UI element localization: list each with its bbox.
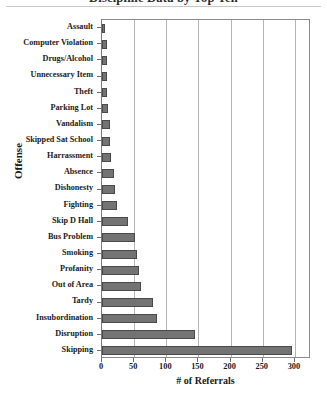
- bar-row[interactable]: [102, 101, 108, 117]
- x-tick-label: 300: [288, 362, 301, 371]
- y-tick-label: Computer Violation: [23, 35, 93, 51]
- x-tick-label: 50: [129, 362, 137, 371]
- x-tick-label: 200: [223, 362, 236, 371]
- x-tick-label: 150: [191, 362, 204, 371]
- bar[interactable]: [102, 233, 135, 242]
- bar[interactable]: [102, 120, 110, 129]
- y-tick-label: Parking Lot: [50, 100, 93, 116]
- y-tick-label: Unnecessary Item: [30, 67, 93, 83]
- y-tick-label: Dishonesty: [55, 180, 93, 196]
- y-tick-label: Assault: [67, 19, 93, 35]
- bar[interactable]: [102, 330, 195, 339]
- bar[interactable]: [102, 137, 110, 146]
- y-tick-label: Smoking: [62, 245, 93, 261]
- bar[interactable]: [102, 346, 292, 355]
- bar[interactable]: [102, 88, 107, 97]
- bar[interactable]: [102, 24, 105, 33]
- bar-row[interactable]: [102, 165, 114, 181]
- bar-row[interactable]: [102, 262, 139, 278]
- y-tick-label: Vandalism: [56, 116, 93, 132]
- chart-title: Discipline Data by Top Ten: [0, 0, 327, 5]
- x-tick-label: 250: [255, 362, 268, 371]
- bar-row[interactable]: [102, 214, 128, 230]
- y-tick-label: Bus Problem: [48, 229, 93, 245]
- x-axis-tick-labels: 050100150200250300: [101, 358, 310, 374]
- bar-row[interactable]: [102, 311, 157, 327]
- x-axis-title: # of Referrals: [101, 375, 310, 386]
- bar-row[interactable]: [102, 198, 117, 214]
- title-divider: [6, 6, 321, 7]
- x-tick-label: 100: [159, 362, 172, 371]
- bar[interactable]: [102, 266, 139, 275]
- bar-series: [102, 20, 309, 357]
- y-tick-label: Drugs/Alcohol: [43, 51, 94, 67]
- bar-row[interactable]: [102, 181, 115, 197]
- bar[interactable]: [102, 153, 111, 162]
- bar-row[interactable]: [102, 20, 105, 36]
- bar-row[interactable]: [102, 68, 107, 84]
- bar-row[interactable]: [102, 52, 107, 68]
- y-tick-label: Harrassment: [47, 148, 93, 164]
- y-axis-tick-labels: AssaultComputer ViolationDrugs/AlcoholUn…: [0, 19, 97, 358]
- bar-row[interactable]: [102, 149, 111, 165]
- bar[interactable]: [102, 298, 153, 307]
- y-tick-label: Theft: [74, 84, 93, 100]
- bar-row[interactable]: [102, 85, 107, 101]
- y-tick-label: Profanity: [60, 261, 93, 277]
- bar-row[interactable]: [102, 246, 137, 262]
- bar-row[interactable]: [102, 343, 292, 359]
- bar[interactable]: [102, 217, 128, 226]
- bar-row[interactable]: [102, 117, 110, 133]
- y-tick-label: Skip D Hall: [52, 213, 93, 229]
- bar-row[interactable]: [102, 133, 110, 149]
- bar[interactable]: [102, 282, 141, 291]
- bar[interactable]: [102, 72, 107, 81]
- bar-row[interactable]: [102, 230, 135, 246]
- y-tick-label: Insubordination: [36, 310, 93, 326]
- plot-area: [101, 19, 310, 358]
- discipline-bar-chart: Discipline Data by Top Ten Offense Assau…: [0, 0, 327, 403]
- y-tick-label: Tardy: [72, 293, 93, 309]
- y-tick-label: Out of Area: [52, 277, 93, 293]
- y-tick-label: Disruption: [55, 326, 93, 342]
- bar[interactable]: [102, 40, 107, 49]
- bar[interactable]: [102, 185, 115, 194]
- bar-row[interactable]: [102, 294, 153, 310]
- x-tick-label: 0: [99, 362, 103, 371]
- bar[interactable]: [102, 314, 157, 323]
- bar-row[interactable]: [102, 278, 141, 294]
- y-tick-label: Skipping: [62, 342, 93, 358]
- y-tick-label: Fighting: [63, 197, 93, 213]
- bar[interactable]: [102, 56, 107, 65]
- bar[interactable]: [102, 169, 114, 178]
- bar-row[interactable]: [102, 36, 107, 52]
- bar[interactable]: [102, 104, 108, 113]
- bar[interactable]: [102, 250, 137, 259]
- y-tick-label: Skipped Sat School: [26, 132, 93, 148]
- bar[interactable]: [102, 201, 117, 210]
- y-tick-label: Absence: [64, 164, 93, 180]
- bar-row[interactable]: [102, 327, 195, 343]
